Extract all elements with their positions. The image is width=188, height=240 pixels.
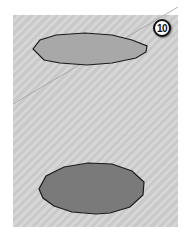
top-ellipse: [33, 33, 147, 65]
step-number-badge: 10: [153, 19, 171, 37]
bottom-ellipse: [39, 163, 144, 214]
